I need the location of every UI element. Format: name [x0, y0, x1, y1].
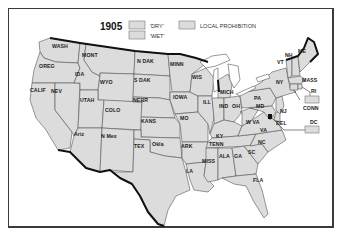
label-nc: NC	[258, 139, 266, 145]
label-mass: MASS	[302, 77, 318, 83]
state-conn[interactable]	[290, 84, 298, 90]
conn-leader-line	[294, 90, 300, 100]
label-ark: ARK	[181, 143, 193, 149]
label-va: VA	[260, 127, 267, 133]
label-me: ME	[298, 48, 306, 54]
legend-swatch-wet	[129, 31, 145, 39]
label-sdak: S DAK	[134, 77, 151, 83]
legend-label-local-prohibition: LOCAL PROHIBITION	[200, 23, 256, 29]
label-ky: KY	[216, 133, 224, 139]
label-wyo: WYO	[100, 79, 113, 85]
state-miss[interactable]	[204, 148, 218, 182]
label-minn: MINN	[170, 61, 184, 67]
label-wva: W VA	[246, 119, 260, 125]
ri-inset-swatch	[305, 96, 319, 103]
label-utah: UTAH	[80, 97, 95, 103]
label-pa: PA	[254, 95, 261, 101]
label-ny: NY	[276, 79, 284, 85]
label-ndak: N DAK	[137, 58, 154, 64]
label-ga: GA	[234, 153, 242, 159]
label-okla: Okla	[152, 141, 164, 147]
label-ariz: Ariz	[74, 131, 85, 137]
state-ri[interactable]	[298, 84, 302, 89]
label-mich: MICH	[220, 89, 234, 95]
label-ill: ILL	[203, 99, 212, 105]
label-del: DEL	[276, 120, 287, 126]
legend-label-wet: 'WET'	[150, 33, 165, 39]
state-colo[interactable]	[102, 100, 142, 130]
legend: 1905 'DRY' 'WET' LOCAL PROHIBITION	[100, 21, 256, 39]
label-mont: MONT	[82, 52, 98, 58]
state-oh[interactable]	[224, 96, 242, 122]
state-ind[interactable]	[212, 98, 224, 124]
label-ida: IDA	[75, 71, 84, 77]
label-nebr: NEBR	[133, 97, 148, 103]
label-ala: ALA	[219, 153, 230, 159]
lake-michigan	[213, 68, 218, 92]
label-dc: DC	[310, 119, 318, 125]
label-nmex: N Mex	[101, 133, 117, 139]
state-wyo[interactable]	[98, 73, 134, 102]
label-ind: IND	[219, 103, 228, 109]
label-nj: NJ	[280, 108, 287, 114]
label-calif: CALIF	[30, 87, 46, 93]
label-ri: RI	[311, 88, 317, 94]
label-wash: WASH	[52, 43, 68, 49]
ri-leader-line	[302, 87, 310, 96]
label-miss: MISS	[202, 158, 216, 164]
label-oreg: OREG	[39, 63, 55, 69]
dc-marker	[268, 114, 272, 119]
label-kans: KANS	[141, 118, 157, 124]
us-prohibition-map: 1905 'DRY' 'WET' LOCAL PROHIBITION	[0, 0, 340, 240]
label-iowa: IOWA	[173, 94, 187, 100]
state-mont[interactable]	[84, 44, 135, 76]
dc-inset-swatch	[305, 126, 319, 133]
label-vt: VT	[277, 59, 285, 65]
map-title: 1905	[100, 21, 123, 32]
label-mo: MO	[180, 115, 189, 121]
label-conn: CONN	[303, 105, 319, 111]
legend-swatch-local-prohibition	[179, 21, 195, 29]
legend-label-dry: 'DRY'	[150, 23, 164, 29]
label-tenn: TENN	[209, 141, 224, 147]
label-colo: COLO	[105, 107, 120, 113]
label-wis: WIS	[192, 74, 203, 80]
label-md: MD	[256, 103, 264, 109]
label-tex: TEX	[134, 143, 145, 149]
label-nev: NEV	[51, 88, 62, 94]
label-nh: NH	[285, 52, 293, 58]
label-la: LA	[186, 168, 193, 174]
label-fla: FLA	[253, 177, 264, 183]
label-oh: OH	[232, 103, 240, 109]
legend-swatch-dry	[129, 21, 145, 29]
label-sc: SC	[248, 149, 256, 155]
